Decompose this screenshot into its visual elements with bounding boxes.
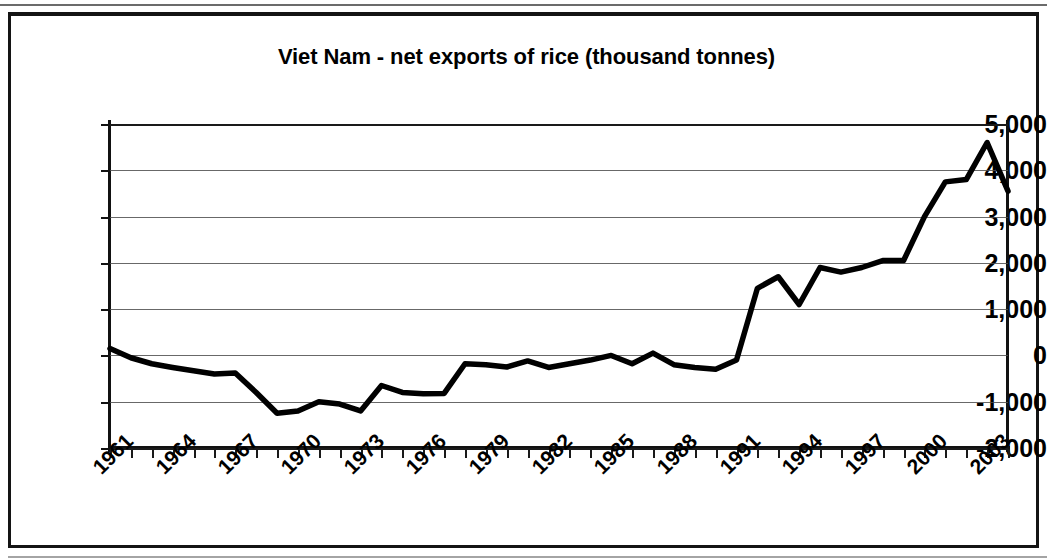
x-tick-mark bbox=[214, 449, 216, 458]
x-tick-mark bbox=[966, 449, 968, 458]
x-tick-mark bbox=[528, 449, 530, 458]
chart-title: Viet Nam - net exports of rice (thousand… bbox=[11, 44, 1042, 70]
x-tick-mark bbox=[402, 449, 404, 458]
x-tick-mark bbox=[778, 449, 780, 458]
series-svg bbox=[110, 124, 1008, 448]
x-tick-mark bbox=[277, 449, 279, 458]
x-tick-mark bbox=[716, 449, 718, 458]
plot-area bbox=[110, 124, 1008, 448]
x-tick-mark bbox=[590, 449, 592, 458]
chart-screenshot: Viet Nam - net exports of rice (thousand… bbox=[0, 0, 1047, 558]
scan-artifact-top bbox=[0, 4, 1047, 6]
x-tick-mark bbox=[653, 449, 655, 458]
x-tick-mark bbox=[152, 449, 154, 458]
x-tick-mark bbox=[904, 449, 906, 458]
x-tick-mark bbox=[340, 449, 342, 458]
series-line-net-exports-of-rice bbox=[110, 143, 1008, 414]
x-tick-mark bbox=[841, 449, 843, 458]
x-tick-mark bbox=[465, 449, 467, 458]
